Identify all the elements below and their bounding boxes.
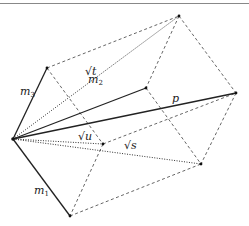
vector-m1 (13, 139, 70, 216)
vertex-u (102, 143, 105, 146)
edge-u-p (103, 93, 236, 144)
vertex-a1 (69, 215, 72, 218)
edge-t-p (179, 16, 236, 93)
vertex-a2 (145, 87, 148, 90)
vector-p (13, 93, 236, 139)
label-sqrt-t: √t (85, 65, 97, 78)
dotted-diagonals (13, 16, 201, 164)
vertex-a3 (46, 67, 49, 70)
label-m1: m1 (34, 184, 49, 198)
vertex-s (200, 163, 203, 166)
vertex-p (235, 92, 238, 95)
label-m3: m3 (20, 85, 35, 99)
vertex-top (178, 15, 181, 18)
edge-p-s (201, 93, 236, 164)
label-sqrt-u: √u (78, 130, 92, 143)
edge-a3-t (47, 16, 179, 68)
edge-a1-s (70, 164, 201, 216)
label-sqrt-s: √s (124, 139, 137, 152)
diagonal-sqrt-s (13, 139, 201, 164)
parallelepiped-vector-diagram: m3 m2 m1 p √t √u √s (0, 0, 249, 226)
dashed-edges (47, 16, 236, 216)
vertex-origin (11, 137, 15, 141)
label-p: p (172, 92, 179, 105)
